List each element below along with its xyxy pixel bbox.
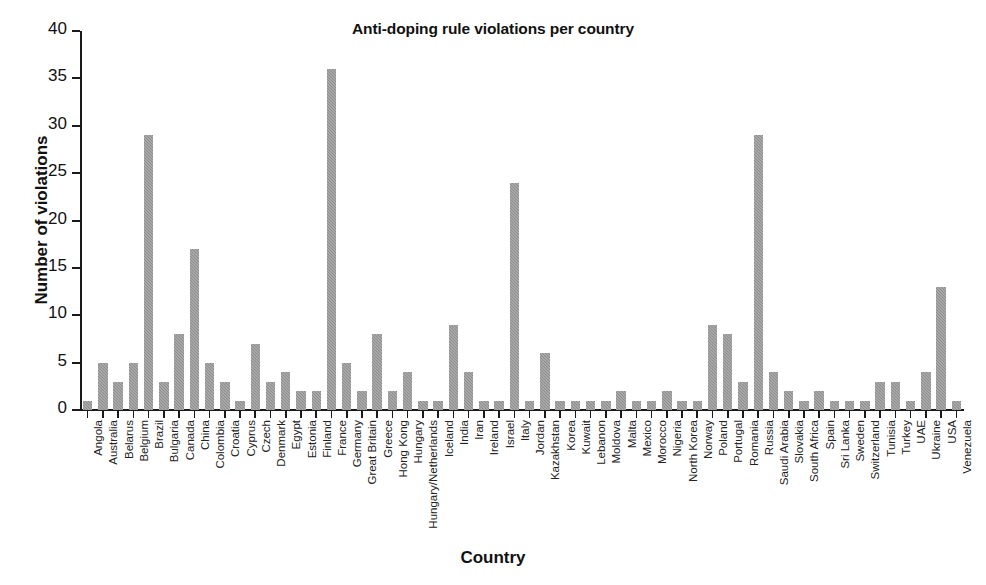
bar [464,372,473,410]
x-tick-label: Hong Kong [397,420,409,478]
x-tick-label: UAE [915,420,927,444]
bar [98,363,107,410]
x-tick-label: Slovakia [793,420,805,463]
bar [799,401,808,410]
x-axis-tick [529,411,531,418]
x-axis-tick [87,411,89,418]
x-tick-label: Egypt [290,420,302,449]
x-axis-tick [453,411,455,418]
x-tick-label: Italy [519,420,531,441]
bar [494,401,503,410]
x-axis-tick [102,411,104,418]
bar [235,401,244,410]
bar [860,401,869,410]
bar-chart: Anti-doping rule violations per country … [0,0,986,585]
y-tick-mark [72,362,80,364]
x-tick-label: Mexico [641,420,653,456]
x-axis-tick [559,411,561,418]
bar [281,372,290,410]
x-tick-label: Angola [92,420,104,456]
bar [891,382,900,410]
x-axis-tick [148,411,150,418]
bar [616,391,625,410]
x-tick-label: Hungary [412,420,424,463]
x-tick-label: Brazil [153,420,165,449]
bar [586,401,595,410]
x-tick-label: Ireland [488,420,500,455]
x-axis-tick [331,411,333,418]
x-tick-label: Great Britain [366,420,378,485]
x-tick-label: Turkey [900,420,912,455]
y-tick-mark [72,172,80,174]
bar [875,382,884,410]
x-axis-tick [133,411,135,418]
x-axis-tick [544,411,546,418]
x-tick-label: Korea [565,420,577,451]
y-tick-mark [72,220,80,222]
bar [159,382,168,410]
y-axis-tick: 35 [72,77,80,79]
x-tick-label: Saudi Arabia [778,420,790,485]
x-axis-tick [636,411,638,418]
x-tick-label: Norway [702,420,714,459]
x-tick-label: Cyprus [245,420,257,456]
x-tick-label: Denmark [275,420,287,467]
x-axis-tick [300,411,302,418]
x-axis-tick [651,411,653,418]
bar [632,401,641,410]
y-tick-mark [72,77,80,79]
y-axis-tick: 0 [72,409,80,411]
x-axis-tick [803,411,805,418]
x-tick-label: Sweden [854,420,866,462]
x-axis-tick [666,411,668,418]
bar [129,363,138,410]
y-axis-tick: 15 [72,267,80,269]
x-axis-tick [788,411,790,418]
x-axis-tick [392,411,394,418]
y-tick-label: 35 [48,66,67,86]
x-tick-label: Iran [473,420,485,440]
bar [144,135,153,410]
x-tick-label: Croatia [229,420,241,457]
bar [845,401,854,410]
bar [449,325,458,410]
x-tick-label: Ukraine [930,420,942,460]
x-tick-label: Morocco [656,420,668,464]
y-axis-tick: 40 [72,30,80,32]
x-axis-tick [712,411,714,418]
x-axis-tick [895,411,897,418]
x-axis-tick [209,411,211,418]
bar [555,401,564,410]
bar [830,401,839,410]
bar [312,391,321,410]
x-axis-tick [270,411,272,418]
x-tick-label: Portugal [732,420,744,463]
y-tick-label: 30 [48,114,67,134]
x-axis-tick [437,411,439,418]
x-tick-label: South Africa [808,420,820,482]
y-tick-mark [72,409,80,411]
x-axis-title: Country [0,548,986,568]
y-tick-mark [72,30,80,32]
y-tick-label: 5 [58,351,67,371]
x-tick-label: Tunisia [885,420,897,457]
bar [220,382,229,410]
x-axis-tick [620,411,622,418]
x-axis-tick [696,411,698,418]
bar [906,401,915,410]
plot-area [80,31,970,410]
bar [662,391,671,410]
x-tick-label: India [458,420,470,445]
x-axis-tick [315,411,317,418]
x-tick-label: Belgium [138,420,150,462]
x-axis-tick [407,411,409,418]
bar [814,391,823,410]
bar [266,382,275,410]
x-tick-label: Russia [763,420,775,455]
x-axis-tick [818,411,820,418]
x-tick-label: Spain [824,420,836,449]
x-axis-tick [879,411,881,418]
x-tick-label: Venezuela [961,420,973,474]
x-tick-label: Nigeria [671,420,683,456]
x-tick-label: Kuwait [580,420,592,455]
